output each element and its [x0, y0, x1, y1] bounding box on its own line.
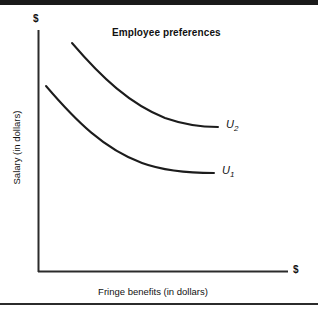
curve-u2 — [72, 43, 218, 127]
curve-label-u2-base: U — [226, 118, 234, 130]
y-axis-label: Salary (in dollars) — [11, 88, 22, 208]
x-axis-label: Fringe benefits (in dollars) — [38, 286, 268, 297]
plot-area — [0, 0, 318, 315]
curve-label-u1: U1 — [222, 164, 234, 179]
y-axis-unit-marker: $ — [33, 13, 39, 24]
curve-label-u1-base: U — [222, 164, 230, 176]
x-axis-unit-marker: $ — [293, 264, 299, 275]
curve-label-u2: U2 — [226, 118, 238, 133]
curve-label-u1-subscript: 1 — [230, 170, 234, 179]
indifference-curve-figure: $ $ Employee preferences Salary (in doll… — [0, 0, 318, 315]
curve-label-u2-subscript: 2 — [234, 124, 238, 133]
page-bottom-rule — [0, 303, 318, 305]
chart-title: Employee preferences — [112, 27, 221, 38]
